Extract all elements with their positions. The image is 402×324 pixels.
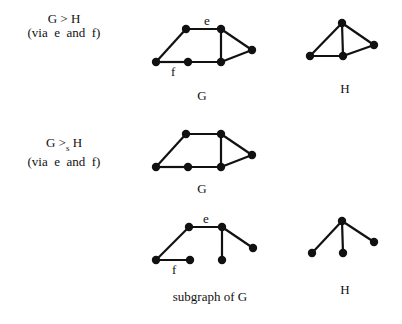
graph-edge — [342, 221, 374, 242]
graph-vertex — [217, 25, 225, 33]
graph-edge — [221, 29, 252, 50]
graph-vertex — [217, 130, 225, 138]
graph-edge — [221, 50, 252, 62]
graph-edge — [342, 23, 343, 56]
graph-vertex — [370, 41, 378, 49]
graph-vertex — [185, 223, 193, 231]
graph-vertex — [248, 151, 256, 159]
graph-edge — [221, 155, 252, 167]
edge-label-e: e — [203, 211, 209, 226]
graph-vertex — [152, 256, 160, 264]
edge-label-f: f — [171, 64, 176, 79]
graph-G-middle — [152, 130, 256, 171]
graph-edge — [310, 23, 342, 56]
edge-label-f: f — [172, 262, 177, 277]
graph-H-bottom — [308, 217, 378, 257]
graph-edge — [342, 221, 343, 253]
graph-vertex — [152, 58, 160, 66]
graph-vertex — [339, 52, 347, 60]
graph-edge — [343, 45, 374, 56]
graph-edge — [156, 134, 186, 167]
graph-vertex — [370, 238, 378, 246]
graph-vertex — [308, 249, 316, 257]
graph-vertex — [217, 58, 225, 66]
graph-subgraph-of-G — [152, 223, 257, 264]
graph-vertex — [338, 19, 346, 27]
graph-H-top — [306, 19, 378, 60]
graph-canvas: e f e f — [0, 0, 402, 324]
graph-vertex — [186, 256, 194, 264]
graph-edge — [156, 227, 189, 260]
graph-vertex — [182, 25, 190, 33]
graph-vertex — [182, 130, 190, 138]
graph-vertex — [339, 249, 347, 257]
graph-G-top — [152, 25, 256, 66]
graph-vertex — [217, 163, 225, 171]
graph-vertex — [306, 52, 314, 60]
graph-edge — [156, 29, 186, 62]
graph-vertex — [218, 256, 226, 264]
graph-vertex — [249, 244, 257, 252]
graph-vertex — [184, 163, 192, 171]
graph-edge — [221, 134, 252, 155]
graph-vertex — [338, 217, 346, 225]
graph-vertex — [218, 223, 226, 231]
graph-vertex — [248, 46, 256, 54]
graph-edge — [342, 23, 374, 45]
edge-label-e: e — [204, 13, 210, 28]
graph-edge — [222, 227, 253, 248]
graph-vertex — [184, 58, 192, 66]
graph-edge — [312, 221, 342, 253]
graph-vertex — [152, 163, 160, 171]
